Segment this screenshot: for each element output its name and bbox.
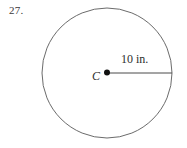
- center-point-label: C: [92, 70, 100, 82]
- radius-measure-label: 10 in.: [121, 53, 148, 65]
- figure-page: 27. C 10 in.: [0, 0, 187, 148]
- center-point-dot: [104, 70, 110, 76]
